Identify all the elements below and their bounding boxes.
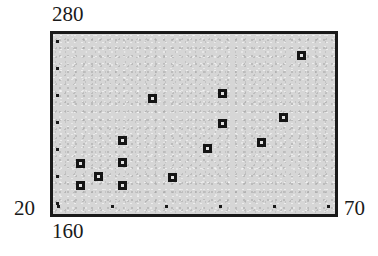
data-point-marker	[94, 172, 103, 181]
y-axis-tick	[56, 121, 59, 124]
x-axis-tick	[111, 205, 114, 208]
data-point-marker	[168, 173, 177, 182]
x-axis-tick	[57, 205, 60, 208]
y-axis-max-label: 280	[52, 4, 84, 25]
y-axis-tick	[56, 148, 59, 151]
x-axis-tick	[219, 205, 222, 208]
y-axis-min-label: 20	[14, 198, 35, 219]
data-point-marker	[76, 159, 85, 168]
data-point-marker	[257, 138, 266, 147]
data-point-marker	[76, 181, 85, 190]
data-point-marker	[297, 51, 306, 60]
data-point-marker	[218, 89, 227, 98]
x-axis-tick	[273, 205, 276, 208]
x-axis-max-label: 70	[344, 198, 365, 219]
plot-area	[50, 31, 338, 217]
x-axis-min-label: 160	[52, 221, 84, 242]
y-axis-tick	[56, 94, 59, 97]
y-axis-tick	[56, 175, 59, 178]
panel-texture	[53, 34, 335, 214]
y-axis-tick	[56, 40, 59, 43]
data-point-marker	[118, 181, 127, 190]
data-point-marker	[118, 136, 127, 145]
data-point-marker	[148, 94, 157, 103]
data-point-marker	[279, 113, 288, 122]
scatter-plot-figure: 280 20 160 70	[0, 0, 378, 256]
data-point-marker	[118, 158, 127, 167]
x-axis-tick	[165, 205, 168, 208]
y-axis-tick	[56, 67, 59, 70]
x-axis-tick	[327, 205, 330, 208]
data-point-marker	[203, 144, 212, 153]
data-point-marker	[218, 119, 227, 128]
